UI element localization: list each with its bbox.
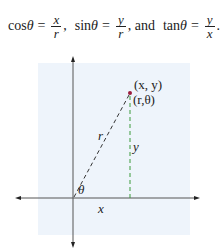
polar-coordinate-diagram: (x, y) (r,θ) r y x θ [0, 0, 220, 250]
x-axis-right-arrow-icon [194, 196, 200, 200]
point-marker [128, 91, 132, 95]
y-axis-up-arrow-icon [71, 56, 75, 62]
diagram-background [38, 63, 190, 235]
y-axis-down-arrow-icon [71, 242, 75, 248]
x-axis-left-arrow-icon [15, 196, 21, 200]
point-cartesian-label: (x, y) [134, 77, 162, 92]
base-label: x [97, 201, 104, 216]
angle-label: θ [78, 182, 85, 197]
point-polar-label: (r,θ) [133, 92, 155, 107]
height-label: y [131, 139, 139, 154]
